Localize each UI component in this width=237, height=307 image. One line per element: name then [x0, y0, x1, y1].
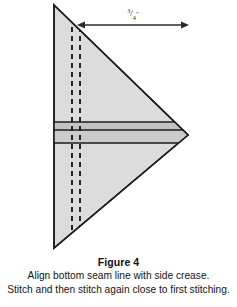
dimension-arrowhead-right	[181, 22, 189, 29]
seam-band-group	[40, 122, 200, 143]
figure-caption-block: Figure 4 Align bottom seam line with sid…	[0, 256, 237, 296]
figure-number-label: Figure 4	[0, 256, 237, 269]
caption-line-1: Align bottom seam line with side crease.	[0, 269, 237, 283]
dimension-arrow	[77, 22, 189, 29]
folded-fabric-diagram: 3/4"	[0, 0, 237, 255]
caption-line-2: Stitch and then stitch again close to fi…	[0, 283, 237, 297]
dimension-label: 3/4"	[127, 7, 139, 21]
seam-band-lower	[40, 130, 200, 143]
dimension-unit: "	[136, 10, 139, 18]
figure-4-illustration: 3/4" Figure 4 Align bottom seam line wit…	[0, 0, 237, 307]
diagram-area: 3/4"	[0, 0, 237, 255]
